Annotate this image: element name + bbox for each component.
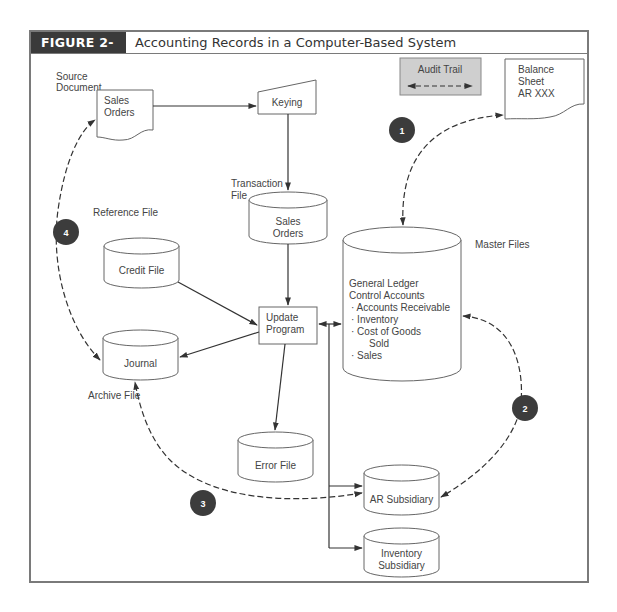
svg-text:Orders: Orders: [104, 107, 135, 118]
svg-text:· Inventory: · Inventory: [351, 314, 398, 325]
svg-text:Sales: Sales: [104, 95, 129, 106]
flow-update-to-journal: [180, 332, 259, 357]
reference-file-label: Reference File: [93, 207, 158, 218]
transaction-file-label-line1: Transaction: [231, 178, 283, 189]
audit-trail-label: Audit Trail: [418, 64, 462, 75]
svg-text:1: 1: [399, 126, 404, 136]
master-files-label: Master Files: [475, 239, 529, 250]
master-file: General Ledger Control Accounts · Accoun…: [343, 227, 461, 381]
audit-trail-legend: Audit Trail: [400, 58, 481, 95]
svg-text:2: 2: [522, 404, 527, 414]
credit-file: Credit File: [104, 238, 179, 288]
svg-text:AR XXX: AR XXX: [518, 88, 555, 99]
update-program-node: Update Program: [259, 307, 317, 344]
sales-orders-document: Sales Orders: [97, 90, 153, 140]
balance-sheet-document: Balance Sheet AR XXX: [505, 59, 584, 119]
svg-text:Keying: Keying: [272, 97, 303, 108]
badge-1: 1: [389, 117, 415, 143]
inventory-subsidiary-file: Inventory Subsidiary: [364, 528, 439, 577]
transaction-file-label-line2: File: [231, 190, 248, 201]
audit-path-1: [403, 115, 503, 225]
badge-3: 3: [190, 490, 216, 516]
svg-text:Error File: Error File: [255, 460, 297, 471]
svg-text:3: 3: [200, 499, 205, 509]
diagram-canvas: Audit Trail Source Document Transaction …: [0, 0, 617, 612]
badge-2: 2: [512, 395, 538, 421]
svg-text:Subsidiary: Subsidiary: [378, 560, 425, 571]
svg-text:Program: Program: [266, 324, 304, 335]
keying-node: Keying: [258, 80, 316, 114]
journal-file: Journal: [103, 330, 178, 380]
svg-text:Inventory: Inventory: [381, 548, 422, 559]
svg-text:AR Subsidiary: AR Subsidiary: [370, 494, 433, 505]
svg-text:General Ledger: General Ledger: [349, 278, 419, 289]
svg-text:Sales: Sales: [275, 216, 300, 227]
svg-text:Control Accounts: Control Accounts: [349, 290, 425, 301]
sales-orders-file: Sales Orders: [249, 192, 327, 244]
source-document-label-line2: Document: [56, 82, 102, 93]
svg-text:Balance: Balance: [518, 64, 555, 75]
svg-text:Update: Update: [266, 312, 299, 323]
svg-text:Sold: Sold: [369, 338, 389, 349]
badge-4: 4: [53, 219, 79, 245]
svg-text:· Accounts Receivable: · Accounts Receivable: [351, 302, 450, 313]
ar-subsidiary-file: AR Subsidiary: [364, 465, 439, 515]
data-flows: [153, 106, 362, 548]
svg-text:· Cost of Goods: · Cost of Goods: [351, 326, 421, 337]
flow-update-to-error: [275, 344, 285, 430]
flow-credit-to-update: [178, 282, 257, 325]
source-document-label-line1: Source: [56, 71, 88, 82]
svg-text:Sheet: Sheet: [518, 76, 544, 87]
svg-text:· Sales: · Sales: [351, 350, 382, 361]
svg-text:Credit File: Credit File: [119, 265, 165, 276]
archive-file-label: Archive File: [88, 390, 141, 401]
svg-text:Orders: Orders: [273, 228, 304, 239]
svg-text:Journal: Journal: [124, 358, 157, 369]
error-file: Error File: [238, 432, 313, 482]
svg-text:4: 4: [63, 228, 68, 238]
